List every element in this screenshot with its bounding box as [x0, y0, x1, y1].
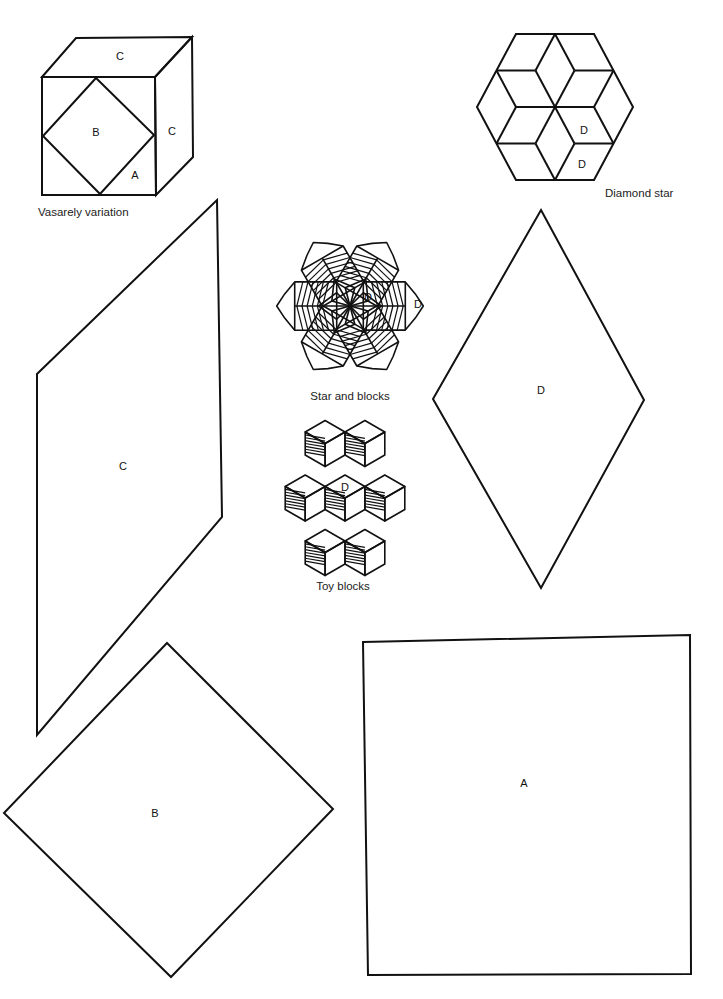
star-blocks-label-inner: D [364, 292, 372, 303]
cube-right-face [325, 432, 345, 467]
diamond-star-label-outer: D [578, 159, 586, 170]
hatch-stroke [311, 269, 329, 286]
template-a-square [363, 635, 691, 975]
cube-top-face [345, 421, 385, 444]
hatch-stroke [308, 330, 326, 347]
star-and-blocks-figure [277, 243, 424, 370]
diamond-star-edge [555, 144, 575, 181]
star-blocks-label-cap: D [414, 299, 422, 310]
hatch-stroke [371, 269, 389, 286]
cube-top-face [305, 421, 345, 444]
template-b-label: B [151, 808, 158, 819]
diamond-star-spoke [536, 107, 556, 144]
diamond-star-spoke [555, 107, 575, 144]
hatch-stroke [316, 278, 334, 295]
hatch-stroke [374, 264, 392, 281]
hatch-stroke [397, 282, 403, 306]
cube-right-face [365, 432, 385, 467]
diamond-star-spoke [536, 71, 556, 108]
cube-top-face [305, 530, 345, 553]
vasarely-label-center: B [92, 127, 99, 138]
vasarely-label-top: C [116, 51, 124, 62]
cube-right-face [365, 541, 385, 576]
hatch-stroke [302, 282, 308, 306]
hatch-stroke [366, 317, 384, 334]
hatch-stroke [316, 317, 334, 334]
hatch-stroke [302, 306, 308, 330]
hatch-stroke [311, 326, 329, 343]
diamond-star-edge [536, 144, 556, 181]
template-a-label: A [520, 778, 527, 789]
vasarely-caption: Vasarely variation [38, 207, 129, 219]
diamond-star-edge [594, 107, 614, 144]
cube-right-face [305, 487, 325, 522]
cube-side-face [155, 37, 193, 195]
diamond-star-edge [555, 34, 575, 71]
cube-right-face [325, 541, 345, 576]
hatch-stroke [297, 282, 303, 306]
template-c-parallelogram [37, 200, 222, 735]
cube-right-face [385, 487, 405, 522]
hatch-stroke [371, 326, 389, 343]
diamond-star-edge [497, 107, 517, 144]
diamond-star-label-inner: D [580, 125, 588, 136]
diamond-star-edge [536, 34, 556, 71]
template-d-diamond [433, 210, 644, 588]
template-c-label: C [119, 461, 127, 472]
template-b-square [4, 643, 333, 977]
toy-blocks-caption: Toy blocks [316, 581, 370, 593]
cube-top-face [365, 475, 405, 498]
hatch-stroke [392, 306, 398, 330]
diamond-star-figure [477, 34, 633, 180]
pattern-sheet [0, 0, 723, 999]
template-d-label: D [537, 385, 545, 396]
diamond-star-edge [497, 71, 517, 108]
hatch-stroke [308, 264, 326, 281]
hatch-stroke [297, 306, 303, 330]
vasarely-label-corner: A [131, 170, 138, 181]
cube-top-face [345, 530, 385, 553]
star-blocks-caption: Star and blocks [310, 391, 389, 403]
hatch-stroke [392, 282, 398, 306]
hatch-stroke [374, 330, 392, 347]
cube-top-face [285, 475, 325, 498]
diamond-star-caption: Diamond star [605, 188, 673, 200]
toy-blocks-figure [285, 421, 405, 576]
hatch-stroke [397, 306, 403, 330]
diamond-star-edge [594, 71, 614, 108]
diamond-star-spoke [555, 71, 575, 108]
toy-blocks-label-center: D [341, 482, 349, 493]
vasarely-label-side: C [168, 126, 176, 137]
